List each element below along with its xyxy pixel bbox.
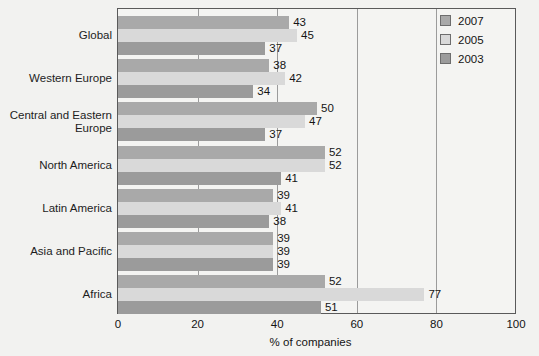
bar-value-label: 39 (277, 258, 290, 271)
bar-value-label: 37 (269, 128, 282, 141)
x-tick-label: 0 (98, 318, 138, 330)
category-label: Western Europe (0, 72, 112, 85)
legend-label: 2005 (458, 34, 484, 46)
category-label-line: Global (0, 29, 112, 42)
legend-swatch-icon (440, 53, 451, 64)
category-label-line: Asia and Pacific (0, 245, 112, 258)
x-axis-title: % of companies (0, 336, 539, 348)
bar (118, 232, 273, 245)
bar (118, 115, 305, 128)
bar (118, 102, 317, 115)
x-tick-label: 100 (496, 318, 536, 330)
bar (118, 59, 269, 72)
category-label-line: Europe (0, 122, 112, 135)
bar-value-label: 77 (428, 288, 441, 301)
bar (118, 189, 273, 202)
bar-value-label: 38 (273, 215, 286, 228)
bar-value-label: 51 (325, 301, 338, 314)
category-label: Central and EasternEurope (0, 109, 112, 135)
x-tick-label: 40 (257, 318, 297, 330)
legend-item-2005[interactable]: 2005 (440, 31, 516, 48)
bar-value-label: 39 (277, 232, 290, 245)
bar-value-label: 41 (285, 202, 298, 215)
bar (118, 29, 297, 42)
bar-value-label: 39 (277, 245, 290, 258)
category-label-line: Western Europe (0, 72, 112, 85)
bar (118, 172, 281, 185)
bar-value-label: 39 (277, 189, 290, 202)
bar (118, 159, 325, 172)
bar-chart: GlobalWestern EuropeCentral and EasternE… (0, 0, 539, 356)
category-label: Latin America (0, 202, 112, 215)
bar (118, 288, 424, 301)
bar-value-label: 52 (329, 275, 342, 288)
category-label-line: Latin America (0, 202, 112, 215)
bar (118, 275, 325, 288)
bar (118, 16, 289, 29)
x-tick-label: 60 (337, 318, 377, 330)
legend-swatch-icon (440, 15, 451, 26)
bar-value-label: 52 (329, 146, 342, 159)
bar-value-label: 43 (293, 16, 306, 29)
legend: 200720052003 (440, 12, 516, 69)
bar-value-label: 41 (285, 172, 298, 185)
legend-item-2003[interactable]: 2003 (440, 50, 516, 67)
bar (118, 128, 265, 141)
x-tick-label: 80 (416, 318, 456, 330)
legend-swatch-icon (440, 34, 451, 45)
bar-value-label: 38 (273, 59, 286, 72)
category-label-line: North America (0, 159, 112, 172)
bar-value-label: 42 (289, 72, 302, 85)
legend-item-2007[interactable]: 2007 (440, 12, 516, 29)
bar (118, 85, 253, 98)
x-axis-title-text: % of companies (270, 336, 352, 348)
bar (118, 301, 321, 314)
bar (118, 42, 265, 55)
bar (118, 245, 273, 258)
bar-value-label: 52 (329, 159, 342, 172)
bar (118, 215, 269, 228)
bar-value-label: 34 (257, 85, 270, 98)
bar (118, 258, 273, 271)
bar-value-label: 47 (309, 115, 322, 128)
x-tick-label: 20 (178, 318, 218, 330)
bar-value-label: 45 (301, 29, 314, 42)
category-label: Africa (0, 288, 112, 301)
bar (118, 72, 285, 85)
category-label: Global (0, 29, 112, 42)
category-axis-labels: GlobalWestern EuropeCentral and EasternE… (0, 8, 112, 314)
category-label-line: Central and Eastern (0, 109, 112, 122)
bar (118, 202, 281, 215)
legend-label: 2003 (458, 53, 484, 65)
bar (118, 146, 325, 159)
legend-label: 2007 (458, 15, 484, 27)
category-label: North America (0, 159, 112, 172)
category-label-line: Africa (0, 288, 112, 301)
clipped-top-text (10, 0, 230, 2)
category-label: Asia and Pacific (0, 245, 112, 258)
bar-value-label: 37 (269, 42, 282, 55)
bar-value-label: 50 (321, 102, 334, 115)
